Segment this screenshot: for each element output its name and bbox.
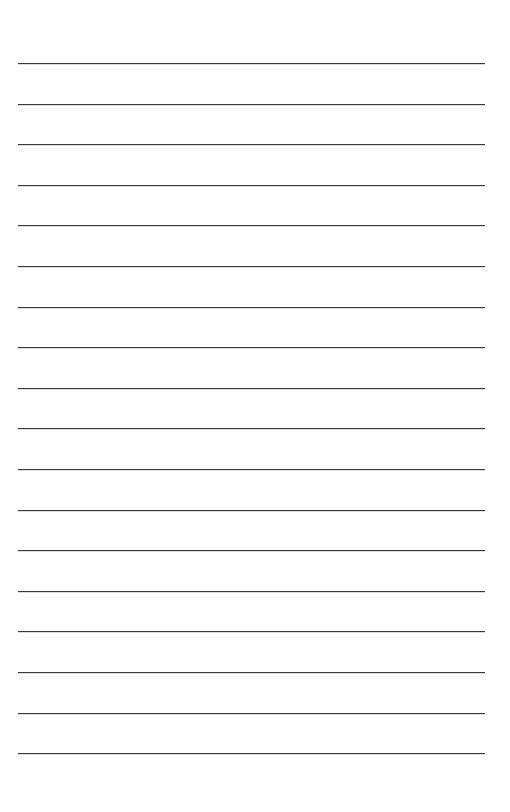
ruled-line	[18, 307, 485, 308]
lined-paper-page	[0, 0, 510, 812]
ruled-line	[18, 266, 485, 267]
ruled-line	[18, 469, 485, 470]
ruled-line	[18, 428, 485, 429]
ruled-line	[18, 144, 485, 145]
ruled-line	[18, 631, 485, 632]
ruled-line	[18, 185, 485, 186]
ruled-line	[18, 347, 485, 348]
ruled-line	[18, 591, 485, 592]
ruled-line	[18, 388, 485, 389]
ruled-line	[18, 104, 485, 105]
ruled-line	[18, 225, 485, 226]
ruled-line	[18, 510, 485, 511]
ruled-line	[18, 713, 485, 714]
ruled-line	[18, 672, 485, 673]
ruled-line	[18, 753, 485, 754]
ruled-line	[18, 550, 485, 551]
ruled-line	[18, 63, 485, 64]
